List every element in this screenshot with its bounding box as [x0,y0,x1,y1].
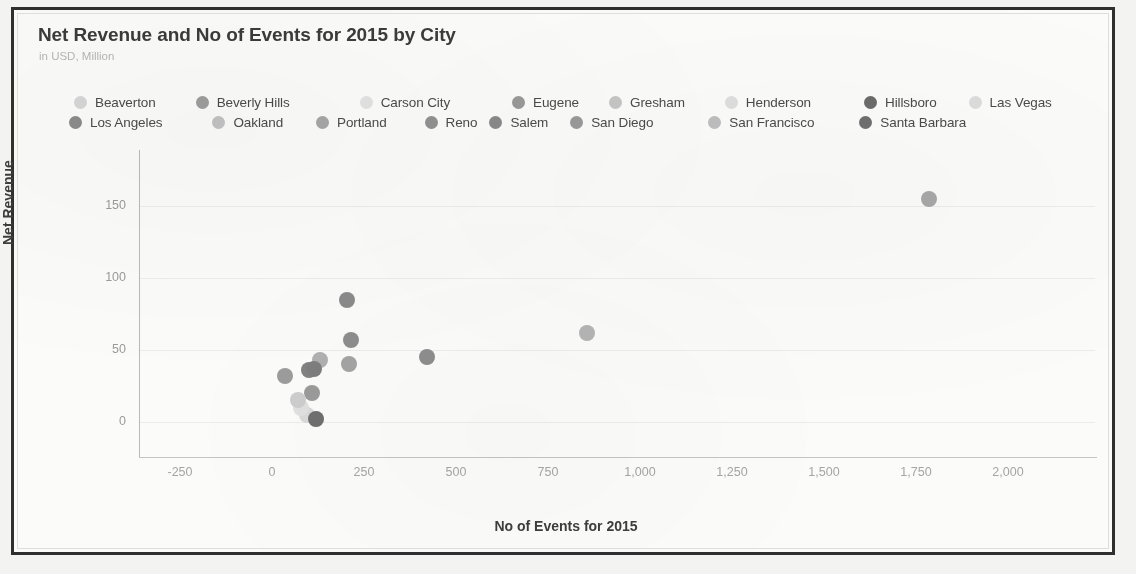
scatter-point-reno[interactable] [419,349,435,365]
scatter-point-san-francisco[interactable] [579,325,595,341]
screenshot-root: Net Revenue and No of Events for 2015 by… [0,0,1136,574]
scatter-point-hillsboro[interactable] [308,411,324,427]
scatter-point-salem[interactable] [277,368,293,384]
scatter-point-san-diego[interactable] [341,356,357,372]
scatter-point-santa-barbara[interactable] [306,361,322,377]
scatter-point-eugene[interactable] [304,385,320,401]
scatter-point-portland[interactable] [339,292,355,308]
scatter-point-beverly-hills[interactable] [343,332,359,348]
chart-page-frame: Net Revenue and No of Events for 2015 by… [11,7,1115,555]
x-axis-title: No of Events for 2015 [14,518,1118,534]
scatter-point-las-vegas[interactable] [921,191,937,207]
data-points-layer [14,10,1118,558]
plot-area: Net Revenue 050100150 -25002505007501,00… [14,10,1118,558]
